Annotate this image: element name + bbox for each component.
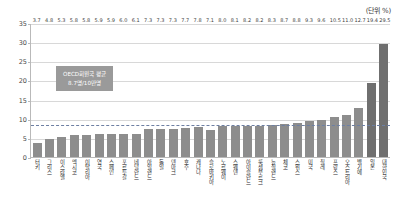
x-axis-label-slot: 벨기에 [353, 159, 365, 206]
x-axis-tick-label: 호주 [182, 159, 187, 169]
bar-value-label: 9.6 [317, 18, 325, 23]
x-axis-tick-label: 칠레 [319, 159, 324, 169]
bar: 10.5 [330, 117, 339, 157]
bar-slot: 8.8 [291, 24, 303, 157]
average-annotation-box: OECD회원국 평균 8.7명/10만명 [56, 66, 113, 91]
x-axis-label-slot: 네덜란드 [129, 159, 141, 206]
x-axis-tick-label: 아이슬란드 [244, 159, 249, 184]
y-axis-tick-label: 20 [19, 77, 27, 85]
bar-value-label: 8.3 [268, 18, 276, 23]
bar: 7.8 [194, 127, 203, 157]
x-axis-tick-label: 뉴질랜드 [269, 159, 274, 179]
plot-area: 05101520253035 3.74.85.35.85.85.95.96.06… [30, 24, 390, 158]
bar: 6.1 [132, 134, 141, 157]
y-axis-tick-label: 30 [19, 39, 27, 47]
bar-value-label: 7.3 [156, 18, 164, 23]
bar-value-label: 9.3 [305, 18, 313, 23]
bar-slot: 6.1 [130, 24, 142, 157]
bar-slot: 7.1 [204, 24, 216, 157]
y-axis-tick-label: 25 [19, 58, 27, 66]
bar-value-label: 29.5 [379, 18, 390, 23]
x-axis-tick-label: 대한민국 [381, 159, 386, 179]
bar: 5.8 [70, 135, 79, 157]
bar-value-label: 6.1 [132, 18, 140, 23]
bar-value-label: 8.8 [293, 18, 301, 23]
x-axis-label-slot: 아이슬란드 [241, 159, 253, 206]
y-axis-tick-label: 35 [19, 20, 27, 28]
bar: 11.0 [342, 115, 351, 157]
bar: 7.3 [144, 129, 153, 157]
bar-value-label: 12.7 [354, 18, 365, 23]
bar-slot: 9.6 [316, 24, 328, 157]
y-axis-tick-label: 0 [23, 154, 27, 162]
bar: 12.7 [354, 108, 363, 157]
bar-value-label: 7.8 [194, 18, 202, 23]
bar-slot: 7.3 [167, 24, 179, 157]
x-axis-tick-label: 체코 [282, 159, 287, 169]
bar: 9.6 [317, 120, 326, 157]
bar-slot: 29.5 [378, 24, 390, 157]
bar-value-label: 5.9 [95, 18, 103, 23]
unit-caption: (단위 %) [366, 5, 391, 15]
x-axis-label-slot: 캐나다 [191, 159, 203, 206]
x-axis-tick-label: 포르투갈 [120, 159, 125, 179]
x-axis-labels: 터키그리스이스라엘멕시코이탈리아영국스페인포르투갈네덜란드아일랜드독일덴마크호주… [30, 159, 390, 206]
bar: 8.0 [218, 126, 227, 157]
x-axis-tick-label: 그리스 [46, 159, 51, 174]
x-axis-label-slot: 포르투갈 [117, 159, 129, 206]
bar-slot: 8.7 [279, 24, 291, 157]
bar-value-label: 7.3 [169, 18, 177, 23]
bar-value-label: 8.1 [231, 18, 239, 23]
bar: 5.3 [57, 137, 66, 157]
y-axis-tick-label: 15 [19, 97, 27, 105]
x-axis-tick-label: 스웨덴 [232, 159, 237, 174]
x-axis-tick-label: 덴마크 [170, 159, 175, 174]
y-axis-tick-label: 5 [23, 135, 27, 143]
bar: 7.1 [206, 130, 215, 157]
bar: 5.8 [82, 135, 91, 157]
x-axis-label-slot: 스웨덴 [229, 159, 241, 206]
bar-slot: 7.8 [192, 24, 204, 157]
bar: 6.0 [119, 134, 128, 157]
bar-slot: 8.0 [217, 24, 229, 157]
bar-value-label: 4.8 [45, 18, 53, 23]
x-axis-tick-label: 스위스 [294, 159, 299, 174]
bar-slot: 3.7 [31, 24, 43, 157]
x-axis-label-slot: 독일 [154, 159, 166, 206]
x-axis-label-slot: 호주 [179, 159, 191, 206]
x-axis-tick-label: 아일랜드 [145, 159, 150, 179]
x-axis-tick-label: 이탈리아 [83, 159, 88, 179]
x-axis-label-slot: 일본 [365, 159, 377, 206]
bar-slot: 19.4 [365, 24, 377, 157]
bar-value-label: 7.3 [144, 18, 152, 23]
bar: 8.3 [268, 125, 277, 157]
x-axis-label-slot: 대한민국 [377, 159, 389, 206]
bar-value-label: 8.0 [218, 18, 226, 23]
bar-slot: 4.8 [43, 24, 55, 157]
x-axis-tick-label: 슬로바키아 [207, 159, 212, 184]
x-axis-label-slot: 프랑스 [328, 159, 340, 206]
average-reference-line [31, 125, 390, 126]
bar-slot: 7.3 [155, 24, 167, 157]
annotation-line-1: OECD회원국 평균 [63, 70, 106, 78]
bar-value-label: 7.1 [206, 18, 214, 23]
x-axis-tick-label: 미국 [306, 159, 311, 169]
bar-slot: 11.0 [340, 24, 352, 157]
bar: 7.3 [156, 129, 165, 157]
x-axis-tick-label: 프랑스 [331, 159, 336, 174]
bar-value-label: 7.7 [181, 18, 189, 23]
annotation-line-2: 8.7명/10만명 [68, 79, 101, 87]
x-axis-tick-label: 캐나다 [195, 159, 200, 174]
bar-slot: 8.1 [229, 24, 241, 157]
x-axis-label-slot: 슬로바키아 [204, 159, 216, 206]
bar-slot: 9.3 [303, 24, 315, 157]
x-axis-tick-label: 네덜란드 [133, 159, 138, 179]
x-axis-label-slot: 아일랜드 [142, 159, 154, 206]
bar-value-label: 10.5 [330, 18, 341, 23]
x-axis-label-slot: 미국 [303, 159, 315, 206]
x-axis-tick-label: 영국 [96, 159, 101, 169]
x-axis-tick-label: 터키 [34, 159, 39, 169]
x-axis-tick-label: 이스라엘 [58, 159, 63, 179]
x-axis-tick-label: 일본 [368, 159, 373, 169]
bar: 8.2 [243, 126, 252, 157]
